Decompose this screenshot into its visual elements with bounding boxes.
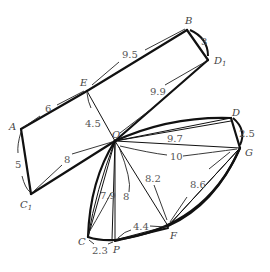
label-B: B [184,15,192,26]
arc-A-E-2 [57,91,84,105]
dist-D-G: 2.5 [239,128,255,139]
arc-E-B-2 [145,29,185,50]
dist-E-B: 9.5 [122,49,138,60]
label-F: F [169,230,178,241]
label-G: G [245,147,253,158]
edge-E-B [87,30,187,91]
geometry-diagram: A E B D1 O C1 D G C P F 6 9.5 3 9.9 4.5 … [0,0,270,272]
label-D1: D1 [213,55,227,68]
dist-G-F: 8.6 [190,179,206,190]
arc-A-C1-1 [18,132,21,153]
distance-labels: 6 9.5 3 9.9 4.5 5 8 9.7 2.5 10 8.2 8.6 7… [15,36,255,256]
main-edges [21,30,240,241]
label-C: C [78,236,86,247]
vertex-O [113,139,116,142]
edge-E-O [87,91,115,141]
dist-E-O: 4.5 [85,118,101,129]
dist-B-D1: 3 [201,36,207,47]
arc-O-D1-2 [165,62,205,85]
label-P: P [112,244,120,255]
label-D: D [231,107,240,118]
label-O: O [112,129,120,140]
dist-O-C: 7.9 [100,190,116,201]
dist-C1-O: 8 [64,154,70,165]
arc-G-F-1 [209,152,230,169]
label-C1: C1 [20,199,32,212]
arc-C-P-1 [89,240,94,244]
label-E: E [79,77,88,88]
dist-O-D1: 9.9 [150,86,166,97]
edge-A-C1 [21,129,31,194]
dist-C-P: 2.3 [92,245,108,256]
arc-A-E-1 [24,116,40,127]
edge-A-E [21,91,87,129]
arc-O-G-1 [120,146,167,155]
dist-O-P: 8 [123,191,129,202]
dist-O-F: 8.2 [145,173,161,184]
dist-O-G: 10 [170,151,183,162]
dist-P-F: 4.4 [133,221,149,232]
dist-A-E: 6 [45,103,51,114]
dist-A-C1: 5 [15,159,21,170]
arc-C1-O-2 [72,142,112,154]
arc-O-P [119,147,130,192]
measurement-arcs [18,29,243,244]
dist-O-D: 9.7 [167,133,183,144]
edge-D1-O [115,60,208,141]
label-A: A [8,121,16,132]
edge-C-P-curve [88,237,115,240]
